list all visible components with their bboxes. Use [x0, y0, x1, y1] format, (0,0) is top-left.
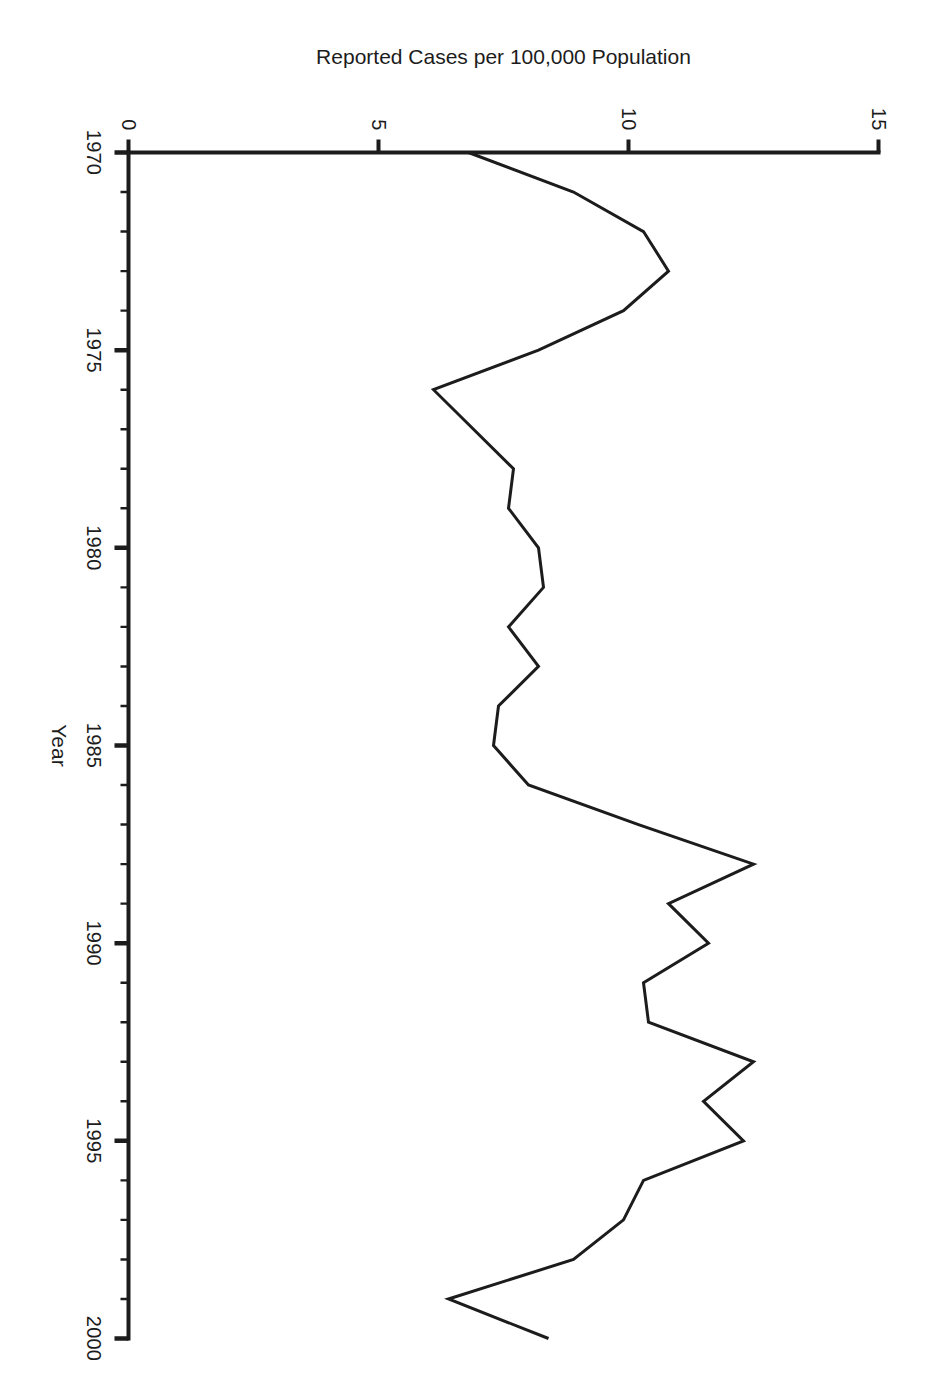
- y-axis-tick-label: 5: [367, 119, 390, 130]
- y-axis-tick-label: 15: [867, 107, 890, 130]
- y-axis-tick-label: 0: [117, 119, 140, 130]
- x-axis-tick-label: 1990: [81, 920, 104, 965]
- x-axis-tick-label: 1970: [81, 129, 104, 174]
- x-axis-tick-label: 2000: [81, 1315, 104, 1360]
- x-axis-tick-marks: [114, 152, 128, 1338]
- x-axis-tick-label: 1995: [81, 1118, 104, 1163]
- y-axis-tick-label: 10: [617, 107, 640, 130]
- rotated-chart-stage: 1970197519801985199019952000 051015 Year…: [0, 0, 933, 1393]
- x-axis-tick-label: 1975: [81, 327, 104, 372]
- data-series-line: [433, 152, 753, 1338]
- y-axis-title: Reported Cases per 100,000 Population: [316, 44, 691, 68]
- x-axis-tick-label: 1985: [81, 722, 104, 767]
- x-axis-tick-label: 1980: [81, 525, 104, 570]
- line-chart-plot: [0, 0, 933, 1393]
- y-axis-tick-marks: [128, 139, 878, 152]
- x-axis-title: Year: [46, 724, 70, 766]
